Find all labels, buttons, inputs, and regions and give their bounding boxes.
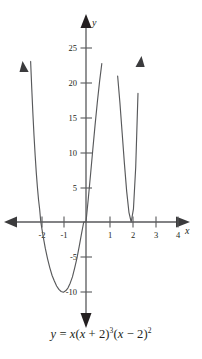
y-axis [81, 14, 92, 328]
x-tick-label-4: 4 [176, 230, 181, 240]
y-tick-label-15: 15 [69, 113, 78, 123]
x-axis-left-arrow [4, 217, 17, 228]
x-tick-label-3: 3 [154, 230, 158, 240]
y-tick-label-20: 20 [69, 78, 78, 88]
equation-equals: = [59, 327, 66, 341]
y-tick-label-5: 5 [73, 183, 77, 193]
y-tick-labels: 25 20 15 10 5 -5 -10 [66, 43, 77, 297]
x-tick-label-2: 2 [131, 230, 135, 240]
x-tick-label-neg1: -1 [60, 230, 67, 240]
equation-plus: + [89, 327, 96, 341]
graph-figure: y x -2 -1 1 2 3 4 [0, 0, 202, 359]
right-branch-arrowhead [136, 56, 145, 67]
left-branch-arrowhead [20, 61, 29, 72]
x-tick-labels: -2 -1 1 2 3 4 [38, 230, 180, 240]
coordinate-plane: y x -2 -1 1 2 3 4 [0, 0, 202, 359]
y-axis-label: y [91, 17, 97, 28]
x-tick-label-1: 1 [108, 230, 112, 240]
x-axis-label: x [184, 225, 190, 236]
equation-caption: y = x(x + 2)3(x − 2)2 [0, 326, 202, 342]
y-tick-label-25: 25 [69, 43, 78, 53]
equation-minus: − [127, 327, 134, 341]
y-tick-label-10: 10 [69, 148, 78, 158]
y-axis-up-arrow [81, 14, 92, 28]
x-axis [4, 217, 190, 228]
function-curve [31, 61, 138, 292]
equation-exponent-2: 2 [148, 326, 152, 335]
